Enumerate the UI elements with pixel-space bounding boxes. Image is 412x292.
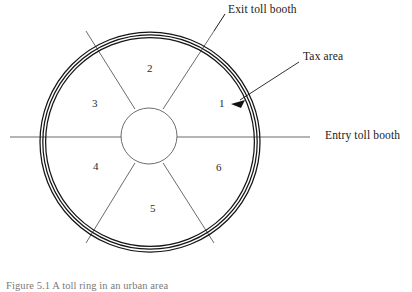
tax-area-arrowhead (231, 100, 245, 108)
sector-number-6: 6 (216, 162, 222, 173)
sector-number-4: 4 (93, 161, 99, 172)
sector-divider-lower-left (86, 163, 135, 243)
figure-caption: Figure 5.1 A toll ring in an urban area (6, 281, 168, 292)
tax-area-leader (240, 62, 299, 100)
callout-label-exit-toll-booth: Exit toll booth (228, 4, 297, 16)
roundabout-island-circle (121, 108, 177, 164)
sector-number-5: 5 (150, 203, 156, 214)
callout-leaders (214, 14, 299, 100)
sector-number-2: 2 (147, 63, 153, 74)
sector-number-1: 1 (219, 98, 225, 109)
figure-root: Exit toll booth Tax area Entry toll boot… (0, 0, 412, 292)
exit-toll-booth-leader (214, 14, 225, 31)
toll-ring-diagram (0, 0, 412, 292)
callout-label-entry-toll-booth: Entry toll booth (325, 130, 400, 142)
callout-label-tax-area: Tax area (303, 51, 343, 63)
sector-divider-upper-right (163, 31, 214, 109)
sector-number-3: 3 (92, 98, 98, 109)
sector-divider-lower-right (163, 163, 214, 243)
